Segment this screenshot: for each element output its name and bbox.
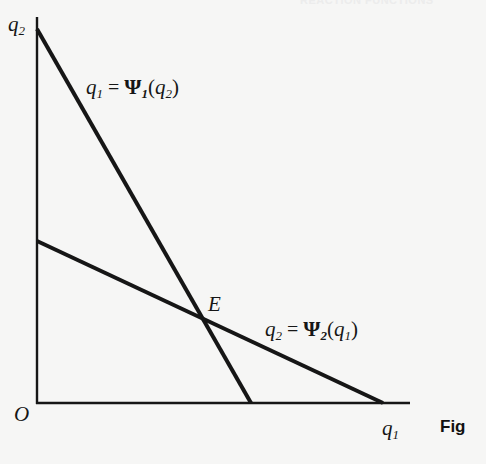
x-axis-label: q1: [382, 418, 399, 441]
x-axis-label-base: q: [382, 416, 393, 440]
curve-1-open-paren: (: [148, 75, 155, 99]
x-axis-label-sub: 1: [393, 427, 400, 442]
curve-2-arg-base: q: [334, 317, 345, 341]
curve-1-psi-symbol: Ψ: [124, 74, 141, 99]
curve-1-lhs-base: q: [86, 75, 97, 99]
diagram-svg: [0, 0, 430, 464]
curve-1-label: q1=Ψ1(q2): [86, 76, 179, 100]
curve-2-open-paren: (: [327, 317, 334, 341]
curve-2-lhs-base: q: [265, 317, 276, 341]
curve-2-psi-symbol: Ψ: [303, 316, 320, 341]
origin-label: O: [14, 404, 29, 425]
y-axis-label-sub: 2: [19, 23, 26, 38]
curve-2-label: q2=Ψ2(q1): [265, 318, 358, 342]
figure-caption: Fig: [440, 417, 466, 437]
equilibrium-point-label: E: [208, 294, 221, 315]
plot-area: [0, 0, 430, 464]
figure-page: REACTION FUNCTIONS q2 q1 O E q1=Ψ1(q2) q…: [0, 0, 486, 464]
curve-1-close-paren: ): [172, 75, 179, 99]
curve-2-equals: =: [282, 318, 303, 340]
curve-1-equals: =: [103, 76, 124, 98]
curve-1-arg-base: q: [155, 75, 166, 99]
y-axis-label: q2: [8, 14, 25, 37]
curve-2-close-paren: ): [351, 317, 358, 341]
y-axis-label-base: q: [8, 12, 19, 36]
